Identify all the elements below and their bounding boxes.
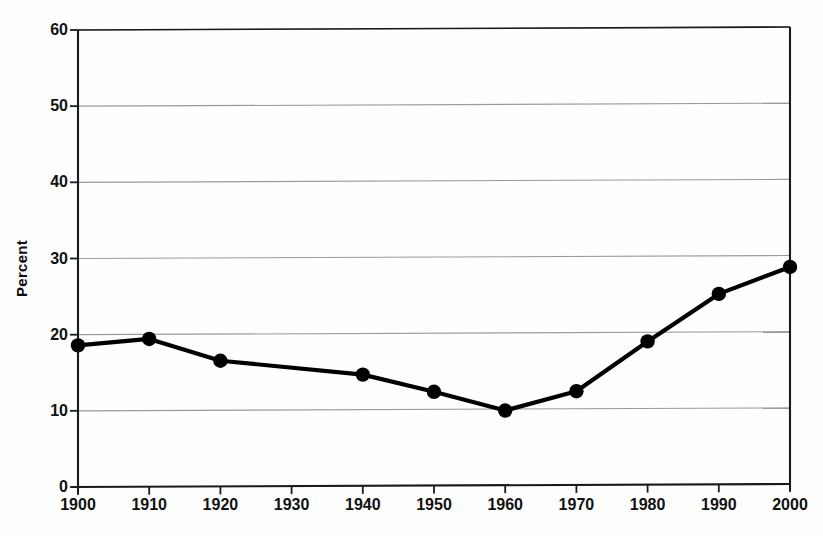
chart-figure: Percent 0102030405060 190019101920193019… <box>0 0 823 536</box>
gridlines <box>78 27 790 411</box>
axis-frame <box>72 27 790 493</box>
axis-ticks <box>70 30 790 495</box>
data-point-markers <box>71 260 797 418</box>
plot-area <box>0 0 823 536</box>
